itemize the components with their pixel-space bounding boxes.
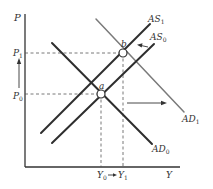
- point-b-marker: [119, 49, 127, 57]
- p1-label: P1: [12, 48, 23, 59]
- guide-lines: [25, 53, 123, 167]
- output-rise-arrowhead-icon: [113, 173, 117, 177]
- x-axis-label: Y: [166, 170, 173, 180]
- as-shift-arrow: [141, 46, 148, 48]
- as-shift-arrowhead-icon: [137, 43, 143, 47]
- shift-arrows: [17, 43, 167, 177]
- as0-label: AS0: [149, 32, 167, 43]
- point-a-marker: [97, 90, 105, 98]
- y0-label: Y0: [97, 170, 107, 181]
- as1-label: AS1: [147, 14, 165, 25]
- ad1-label: AD1: [181, 114, 200, 125]
- point-b-label: b: [121, 39, 127, 49]
- ad0-label: AD0: [151, 144, 170, 155]
- point-a-label: a: [99, 81, 104, 91]
- y-axis-label: P: [13, 12, 21, 23]
- y1-label: Y1: [118, 170, 128, 181]
- equilibrium-points: a b: [97, 39, 127, 98]
- p0-label: P0: [12, 91, 23, 102]
- ad-as-diagram: a b P Y P1 P0 Y0 Y1 AS1 AS0 AD1 AD0: [0, 0, 213, 189]
- as1-curve: [41, 24, 150, 133]
- ad-shift-arrowhead-icon: [161, 101, 167, 105]
